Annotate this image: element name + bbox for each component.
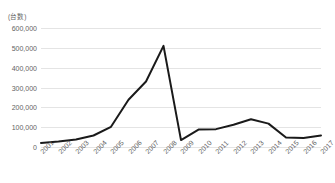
y-axis-tick-label: 600,000 — [12, 25, 37, 32]
y-axis-tick-label: 200,000 — [12, 104, 37, 111]
series-line — [41, 46, 321, 143]
y-axis-tick-labels: 600,000500,000400,000300,000200,000100,0… — [0, 0, 41, 183]
y-axis-tick-label: 500,000 — [12, 44, 37, 51]
plot-area — [41, 28, 321, 147]
y-axis-tick-label: 300,000 — [12, 84, 37, 91]
x-axis-tick-label: 2017 — [319, 139, 335, 155]
y-axis-tick-label: 400,000 — [12, 64, 37, 71]
y-axis-tick-label: 100,000 — [12, 124, 37, 131]
x-axis-tick-labels: 2001200220032004200520062007200820092010… — [41, 150, 329, 183]
series-line-chart — [41, 28, 321, 147]
y-axis-tick-label: 0 — [33, 144, 37, 151]
